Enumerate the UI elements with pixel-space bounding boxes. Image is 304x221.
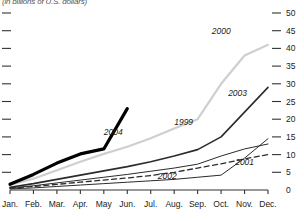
x-axis-label: Jan. — [2, 199, 18, 209]
x-axis-label: Apr. — [73, 199, 88, 209]
x-axis-label: Nov. — [236, 199, 253, 209]
line-chart: (in billions of U.S. dollars) 0510152025… — [0, 0, 304, 221]
series-line-2001 — [10, 155, 268, 189]
y-axis-label: 25 — [286, 97, 296, 107]
y-axis-label: 0 — [286, 185, 291, 195]
series-label-2002: 2002 — [157, 171, 177, 181]
x-axis-label: Jul. — [144, 199, 157, 209]
y-axis-label: 10 — [286, 150, 296, 160]
series-label-2001: 2001 — [234, 157, 254, 167]
y-axis-label: 45 — [286, 26, 296, 36]
x-axis-label: Sep. — [189, 199, 207, 209]
x-axis-label: Aug. — [165, 199, 183, 209]
series-label-2000: 2000 — [211, 26, 231, 36]
y-axis-label: 15 — [286, 132, 296, 142]
y-axis-label: 20 — [286, 114, 296, 124]
y-axis-label: 5 — [286, 167, 291, 177]
x-axis-label: Feb. — [25, 199, 42, 209]
series-line-2004 — [10, 109, 127, 185]
x-axis-label: May — [96, 199, 113, 209]
y-axis-label: 30 — [286, 79, 296, 89]
series-label-2004: 2004 — [103, 127, 123, 137]
chart-canvas: 05101520253035404550Jan.Feb.Mar.Apr.MayJ… — [0, 0, 304, 221]
y-axis-label: 40 — [286, 43, 296, 53]
x-axis-label: Dec. — [259, 199, 276, 209]
y-axis-label: 50 — [286, 8, 296, 18]
x-axis-label: Mar. — [49, 199, 66, 209]
series-label-2003: 2003 — [227, 88, 247, 98]
x-axis-label: Jun. — [119, 199, 135, 209]
x-axis-label: Oct. — [213, 199, 229, 209]
series-label-1999: 1999 — [174, 117, 193, 127]
y-axis-label: 35 — [286, 61, 296, 71]
